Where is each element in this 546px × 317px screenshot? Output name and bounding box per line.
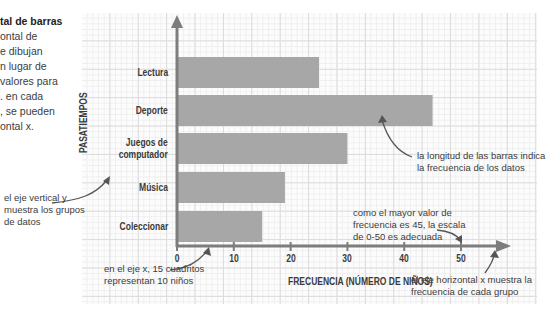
- category-label: Música: [139, 182, 168, 194]
- category-label: Deporte: [136, 105, 168, 117]
- note-line: de 0-50 es adecuada: [353, 231, 465, 243]
- x-tick-label: 30: [335, 253, 361, 264]
- bar-length-note: la longitud de las barras indica la frec…: [417, 150, 545, 174]
- note-line: frecuencia de cada grupo: [411, 286, 532, 298]
- note-line: representan 10 niños: [104, 275, 204, 287]
- x-tick-label: 50: [448, 253, 474, 264]
- bar-música: [178, 172, 285, 203]
- note-line: de datos: [4, 216, 85, 228]
- max-value-note: como el mayor valor de frecuencia es 45,…: [353, 207, 465, 243]
- x-axis-note: el eje horizontal x muestra la frecuenci…: [411, 274, 532, 298]
- x-tick-label: 20: [278, 253, 304, 264]
- note-line: el eje vertical y: [4, 192, 85, 204]
- note-line: la longitud de las barras indica: [417, 150, 545, 162]
- bar-deporte: [178, 95, 433, 126]
- y-axis-title: PASATIEMPOS: [78, 92, 89, 153]
- x-tick-label: 40: [391, 253, 417, 264]
- note-line: muestra los grupos: [4, 204, 85, 216]
- note-line: en el eje x, 15 cuadritos: [104, 263, 204, 275]
- note-line: como el mayor valor de: [353, 207, 465, 219]
- x-tick-label: 10: [221, 253, 247, 264]
- note-line: frecuencia es 45, la escala: [353, 219, 465, 231]
- note-line: el eje horizontal x muestra la: [411, 274, 532, 286]
- bar-coleccionar: [178, 211, 262, 242]
- category-label: Coleccionar: [119, 221, 168, 233]
- note-line: la frecuencia de los datos: [417, 162, 545, 174]
- bar-juegos-de-computador: [178, 133, 347, 164]
- y-axis-arrow-icon: [171, 15, 183, 28]
- y-axis-note: el eje vertical y muestra los grupos de …: [4, 192, 85, 228]
- x-axis-arrow-icon: [496, 240, 511, 252]
- category-label: Lectura: [137, 67, 168, 79]
- scale-note: en el eje x, 15 cuadritos representan 10…: [104, 263, 204, 287]
- bar-lectura: [178, 57, 319, 88]
- category-label: Juegos decomputador: [119, 137, 168, 161]
